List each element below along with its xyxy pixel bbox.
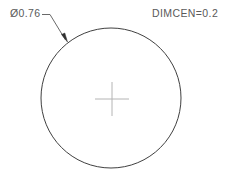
circle-entity[interactable] <box>41 28 181 168</box>
drawing-svg <box>0 0 228 183</box>
leader-arrowhead-icon <box>62 33 68 42</box>
diameter-dimension-text[interactable]: Ø0.76 <box>10 8 41 19</box>
dimcen-note-text[interactable]: DIMCEN=0.2 <box>152 8 218 19</box>
cad-drawing-canvas: Ø0.76 DIMCEN=0.2 <box>0 0 228 183</box>
